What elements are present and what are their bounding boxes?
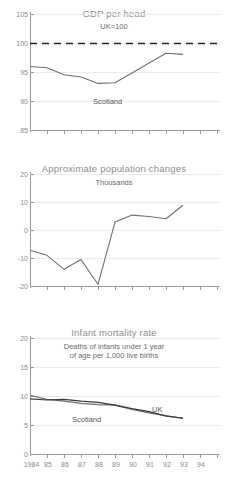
y-tick-gdp-105: 105 <box>6 11 28 18</box>
gridlines-infant-mortality <box>30 339 220 426</box>
y-tick-pop-neg10: -10 <box>6 255 28 262</box>
y-tick-gdp-95: 95 <box>6 69 28 76</box>
y-tick-gdp-100: 100 <box>6 40 28 47</box>
y-tick-imr-15: 15 <box>6 364 28 371</box>
y-tick-pop-neg20: -20 <box>6 283 28 290</box>
plot-area-infant-mortality <box>30 332 222 464</box>
y-tick-gdp-85: 85 <box>6 127 28 134</box>
y-tick-imr-20: 20 <box>6 335 28 342</box>
chart-infant-mortality: Infant mortality rate Deaths of infants … <box>0 310 228 479</box>
series-label-scotland-gdp: Scotland <box>93 98 122 106</box>
x-tick-85: 85 <box>39 461 57 468</box>
plot-area-gdp <box>30 8 222 138</box>
y-tick-pop-0: 0 <box>6 227 28 234</box>
y-tick-gdp-90: 90 <box>6 98 28 105</box>
plot-area-population <box>30 168 222 294</box>
x-tick-86: 86 <box>56 461 74 468</box>
series-line-scotland-gdp <box>30 53 183 83</box>
x-tick-87: 87 <box>73 461 91 468</box>
x-tick-93: 93 <box>175 461 193 468</box>
x-tick-94: 94 <box>192 461 210 468</box>
figure-panel: GDP per head UK=100 105 100 95 90 85 <box>0 0 228 479</box>
y-tick-pop-20: 20 <box>6 171 28 178</box>
y-tick-imr-0: 0 <box>6 451 28 458</box>
gridlines-gdp <box>30 15 220 102</box>
series-label-uk-imr: UK <box>152 406 162 414</box>
chart-gdp-per-head: GDP per head UK=100 105 100 95 90 85 <box>0 0 228 155</box>
y-tick-imr-10: 10 <box>6 393 28 400</box>
series-line-population-change <box>30 205 183 284</box>
y-tick-imr-5: 5 <box>6 422 28 429</box>
x-tick-88: 88 <box>90 461 108 468</box>
x-tick-91: 91 <box>141 461 159 468</box>
x-tick-89: 89 <box>107 461 125 468</box>
gridlines-population <box>30 175 220 259</box>
y-tick-pop-10: 10 <box>6 199 28 206</box>
series-label-scotland-imr: Scotland <box>72 416 101 424</box>
x-tick-90: 90 <box>124 461 142 468</box>
chart-population-changes: Approximate population changes Thousands… <box>0 155 228 310</box>
x-tick-92: 92 <box>158 461 176 468</box>
